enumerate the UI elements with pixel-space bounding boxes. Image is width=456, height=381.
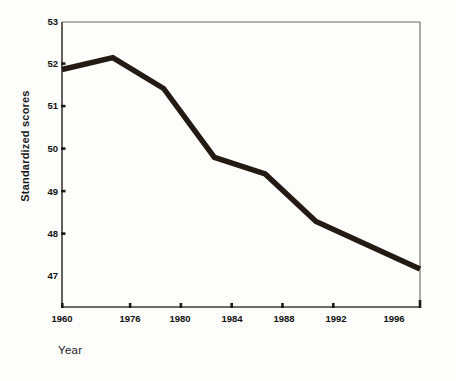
chart-plot-area	[0, 0, 456, 381]
chart-figure: Standardized scores Year 53 52 51 50 49 …	[0, 0, 456, 381]
data-series-line	[62, 58, 420, 269]
